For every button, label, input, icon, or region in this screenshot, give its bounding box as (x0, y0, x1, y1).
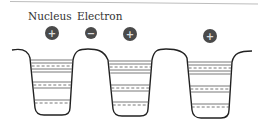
nucleus-label: Nucleus (28, 10, 72, 22)
potential-well-diagram: Nucleus Electron + − + + (0, 0, 266, 126)
plus-sign: + (126, 29, 134, 40)
electron-label: Electron (77, 10, 123, 22)
nucleus-particle-3: + (203, 29, 217, 43)
diagram-canvas: Nucleus Electron + − + + (0, 0, 266, 126)
well-1-levels (31, 60, 73, 103)
plus-sign: + (48, 28, 56, 39)
potential-curve (12, 49, 252, 118)
top-rule (10, 2, 258, 5)
electron-particle: − (85, 27, 97, 39)
nucleus-particle-1: + (45, 26, 59, 40)
plus-sign: + (206, 31, 214, 42)
nucleus-particle-2: + (123, 27, 137, 41)
well-3-levels (188, 62, 232, 107)
minus-sign: − (87, 28, 95, 39)
well-2-levels (109, 61, 152, 105)
